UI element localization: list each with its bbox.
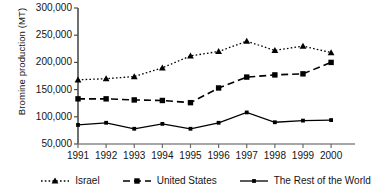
data-point-marker [244,74,249,79]
series-israel [75,38,335,83]
data-point-marker [189,127,193,131]
data-point-marker [215,48,222,54]
series-united-states [75,60,333,106]
data-point-marker [329,118,333,122]
data-point-marker [75,96,80,101]
legend-item-israel[interactable]: Israel [40,176,99,186]
bromine-production-line-chart: Bromine production (MT) 50,000100,000150… [0,0,385,196]
data-point-marker [132,97,137,102]
legend-item-united-states[interactable]: United States [122,176,217,186]
dashed-square-key [122,176,152,186]
legend-item-label: The Rest of the World [274,176,371,186]
data-point-marker [245,111,249,115]
data-point-marker [75,76,82,82]
solid-square-key [239,176,269,186]
dotted-triangle-key [40,176,70,186]
chart-legend: IsraelUnited StatesThe Rest of the World [0,170,385,192]
data-point-marker [300,71,305,76]
data-point-marker [160,98,165,103]
series-line [78,62,331,102]
data-point-marker [188,100,193,105]
data-point-marker [300,43,307,49]
data-point-marker [103,96,108,101]
data-point-marker [217,121,221,125]
data-point-marker [104,121,108,125]
data-point-marker [328,60,333,65]
series-the-rest-of-the-world [76,111,333,131]
data-point-marker [216,85,221,90]
series-line [78,112,331,128]
data-point-marker [160,122,164,126]
data-series-layer [75,38,335,131]
data-point-marker [272,72,277,77]
data-point-marker [243,38,250,44]
legend-item-the-rest-of-the-world[interactable]: The Rest of the World [239,176,371,186]
legend-item-label: United States [157,176,217,186]
legend-item-label: Israel [75,176,99,186]
data-point-marker [273,120,277,124]
data-point-marker [301,119,305,123]
data-point-marker [132,127,136,131]
data-point-marker [76,123,80,127]
plot-area [0,0,385,196]
